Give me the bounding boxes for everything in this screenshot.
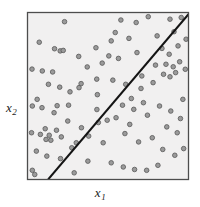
plot-canvas: [0, 0, 200, 207]
data-point: [45, 154, 50, 159]
data-point: [37, 40, 42, 45]
data-point: [135, 50, 140, 55]
data-point: [29, 130, 34, 135]
data-point: [47, 133, 52, 138]
data-point: [55, 103, 60, 108]
data-point: [120, 103, 125, 108]
y-axis-label: x2: [6, 101, 16, 114]
data-point: [30, 104, 35, 109]
data-point: [50, 70, 55, 75]
data-point: [68, 90, 73, 95]
data-point: [114, 115, 119, 120]
data-point: [167, 52, 172, 57]
data-point: [173, 70, 178, 75]
data-point: [43, 126, 48, 131]
data-point: [153, 63, 158, 68]
data-point: [160, 147, 165, 152]
data-point: [107, 54, 112, 59]
data-point: [151, 80, 156, 85]
data-point: [136, 140, 141, 145]
data-point: [62, 19, 67, 24]
data-point: [109, 39, 114, 44]
data-point: [40, 105, 45, 110]
data-point: [140, 74, 145, 79]
data-point: [161, 72, 166, 77]
data-point: [52, 46, 57, 51]
data-point: [156, 163, 161, 168]
data-point: [59, 135, 64, 140]
data-point: [119, 18, 124, 23]
data-point: [127, 36, 132, 41]
plot-area-background: [28, 13, 189, 180]
x-axis-label-subscript: 1: [101, 192, 106, 202]
data-point: [168, 75, 173, 80]
data-point: [127, 122, 132, 127]
x-axis-label: x1: [95, 186, 105, 199]
data-point: [146, 14, 151, 19]
data-point: [44, 137, 49, 142]
data-point: [61, 48, 66, 53]
data-point: [139, 86, 144, 91]
data-point: [171, 64, 176, 69]
data-point: [101, 140, 106, 145]
data-point: [58, 156, 63, 161]
data-point: [54, 128, 59, 133]
data-point: [155, 34, 160, 39]
data-point: [181, 146, 186, 151]
data-point: [38, 132, 43, 137]
data-point: [168, 17, 173, 22]
data-point: [183, 67, 188, 72]
data-point: [79, 125, 84, 130]
data-point: [66, 103, 71, 108]
data-point: [95, 92, 100, 97]
data-point: [141, 100, 146, 105]
data-point: [35, 97, 40, 102]
data-point: [94, 45, 99, 50]
data-point: [52, 110, 57, 115]
data-point: [144, 168, 149, 173]
scatter-plot-figure: x2 x1: [0, 0, 200, 207]
data-point: [177, 59, 182, 64]
data-point: [179, 15, 184, 20]
data-point: [95, 107, 100, 112]
data-point: [100, 61, 105, 66]
data-point: [123, 131, 128, 136]
data-point: [94, 77, 99, 82]
data-point: [181, 97, 186, 102]
y-axis-label-subscript: 2: [12, 107, 17, 117]
data-point: [175, 130, 180, 135]
data-point: [109, 161, 114, 166]
data-point: [173, 153, 178, 158]
data-point: [134, 20, 139, 25]
data-point: [86, 159, 91, 164]
data-point: [168, 109, 173, 114]
data-point: [131, 107, 136, 112]
data-point: [76, 54, 81, 59]
data-point: [176, 44, 181, 49]
data-point: [30, 67, 35, 72]
data-point: [145, 113, 150, 118]
data-point: [40, 69, 45, 74]
data-point: [184, 37, 189, 42]
data-point: [113, 30, 118, 35]
data-point: [150, 135, 155, 140]
data-point: [72, 171, 77, 176]
y-axis-label-base: x: [6, 100, 12, 115]
data-point: [65, 119, 70, 124]
data-point: [34, 149, 39, 154]
data-point: [85, 65, 90, 70]
data-point: [164, 125, 169, 130]
data-point: [157, 104, 162, 109]
data-point: [111, 78, 116, 83]
data-point: [77, 85, 82, 90]
data-point: [178, 116, 183, 121]
data-point: [121, 165, 126, 170]
data-point: [46, 82, 51, 87]
data-point: [132, 167, 137, 172]
data-point: [105, 118, 110, 123]
data-point: [164, 62, 169, 67]
data-point: [49, 138, 54, 143]
data-point: [116, 56, 121, 61]
data-point: [129, 96, 134, 101]
data-point: [32, 172, 37, 177]
